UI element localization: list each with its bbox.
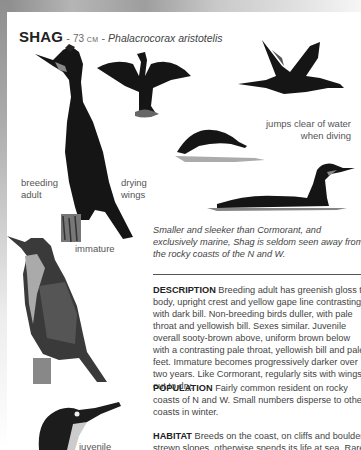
illustration-drying-wings — [95, 52, 195, 122]
species-caption: Smaller and sleeker than Cormorant, and … — [153, 225, 361, 260]
label-juvenile: juvenile — [79, 441, 111, 450]
label-diving: jumps clear of water when diving — [247, 118, 351, 141]
illustration-swimming — [197, 162, 357, 212]
label-line: immature — [75, 243, 115, 255]
label-breeding-adult: breeding adult — [21, 177, 58, 200]
label-line: when diving — [247, 130, 351, 142]
label-drying-wings: drying wings — [121, 177, 147, 200]
label-line: adult — [21, 189, 58, 201]
section-heading-population: POPULATION — [153, 383, 213, 393]
field-guide-page: SHAG - 73 CM - Phalacrocorax aristotelis… — [7, 12, 361, 450]
section-heading-description: DESCRIPTION — [153, 285, 216, 295]
page-edge-top — [0, 0, 361, 12]
page-edge-left — [0, 0, 7, 450]
divider-rule — [153, 274, 361, 275]
label-line: wings — [121, 189, 147, 201]
section-text-description: Breeding adult has greenish gloss to bod… — [153, 285, 361, 391]
illustration-immature — [7, 234, 112, 384]
section-heading-habitat: HABITAT — [153, 431, 192, 441]
label-line: breeding — [21, 177, 58, 189]
section-habitat: HABITAT Breeds on the coast, on cliffs a… — [153, 430, 361, 450]
section-description: DESCRIPTION Breeding adult has greenish … — [153, 284, 361, 392]
label-line: drying — [121, 177, 147, 189]
illustration-flying — [232, 36, 352, 106]
label-line: juvenile — [79, 441, 111, 450]
section-population: POPULATION Fairly common resident on roc… — [153, 382, 361, 418]
label-immature: immature — [75, 243, 115, 255]
label-line: jumps clear of water — [247, 118, 351, 130]
